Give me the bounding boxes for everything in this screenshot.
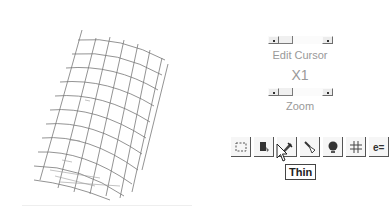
zoom-label: Zoom [240,100,360,112]
arrow-right-icon [327,40,329,42]
scroll-left-button[interactable] [268,36,279,44]
tooltip: Thin [285,164,316,180]
mesh-canvas[interactable] [0,0,220,211]
globe-icon [326,140,340,154]
equation-button[interactable]: e= [369,137,389,157]
zoom-left-button[interactable] [268,88,279,96]
brush-icon [303,140,317,154]
tool-palette: e= [231,137,391,157]
arrow-right-icon [327,92,329,94]
zoom-track[interactable] [293,88,322,96]
zoom-right-button[interactable] [322,88,333,96]
arrow-left-icon [273,40,275,42]
e-equals-icon: e= [372,140,386,154]
globe-button[interactable] [323,137,343,157]
edit-cursor-scrollbar[interactable] [268,36,333,45]
mouse-pointer-icon [276,143,290,163]
brush-button[interactable] [300,137,320,157]
paint-bucket-button[interactable] [254,137,274,157]
zoom-thumb[interactable] [279,88,293,96]
select-rect-button[interactable] [231,137,251,157]
multiplier-value: X1 [240,67,360,83]
arrow-left-icon [273,92,275,94]
grid-button[interactable] [346,137,366,157]
scroll-track[interactable] [293,36,322,44]
grid-icon [349,140,363,154]
divider [22,205,192,206]
scroll-thumb[interactable] [279,36,293,44]
dashed-rectangle-icon [234,140,248,154]
edit-cursor-label: Edit Cursor [240,49,360,61]
svg-text:e=: e= [373,142,385,153]
zoom-scrollbar[interactable] [268,88,333,97]
paint-bucket-icon [257,140,271,154]
scroll-right-button[interactable] [322,36,333,44]
